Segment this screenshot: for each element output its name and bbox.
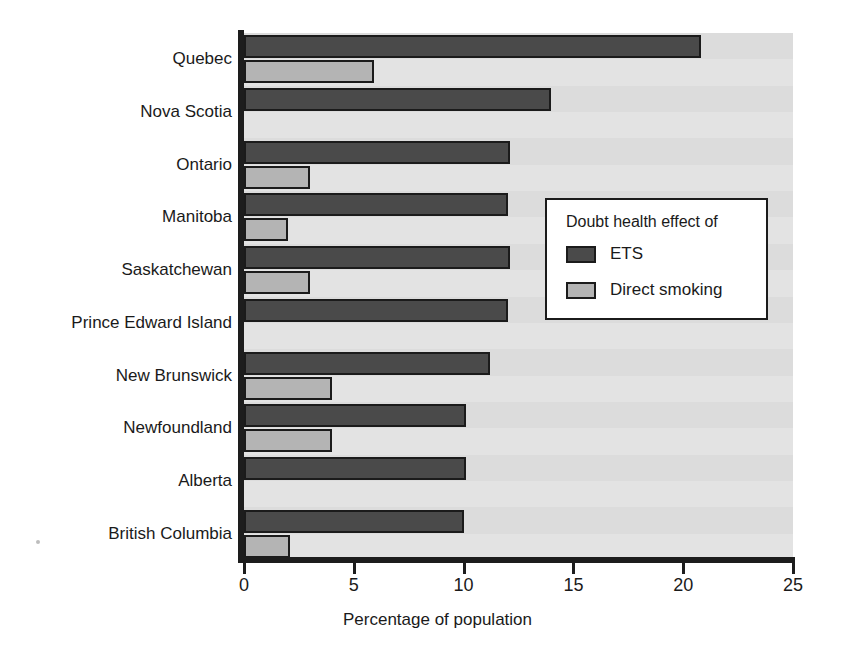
x-tick-mark <box>792 563 795 574</box>
category-label: Nova Scotia <box>140 103 232 121</box>
category-label: Newfoundland <box>123 419 232 437</box>
bar-chart: QuebecNova ScotiaOntarioManitobaSaskatch… <box>0 0 845 660</box>
x-tick-label: 10 <box>454 575 474 595</box>
category-label: Alberta <box>178 472 232 490</box>
category-label: New Brunswick <box>116 367 232 385</box>
x-tick-label: 5 <box>349 575 359 595</box>
x-tick-mark <box>463 563 466 574</box>
bar-ets <box>244 457 466 480</box>
legend-title: Doubt health effect of <box>566 213 718 231</box>
x-tick-label: 0 <box>239 575 249 595</box>
bar-direct-smoking <box>244 271 310 294</box>
bar-ets <box>244 193 508 216</box>
x-tick-mark <box>243 563 246 574</box>
bar-ets <box>244 88 551 111</box>
bar-ets <box>244 404 466 427</box>
bar-ets <box>244 141 510 164</box>
bar-direct-smoking <box>244 377 332 400</box>
category-label: Prince Edward Island <box>71 314 232 332</box>
x-tick-label: 20 <box>673 575 693 595</box>
legend: Doubt health effect of ETS Direct smokin… <box>545 198 768 320</box>
legend-label-direct-smoking: Direct smoking <box>610 280 722 300</box>
legend-label-ets: ETS <box>610 244 643 264</box>
legend-swatch-ets <box>566 246 596 263</box>
x-tick-label: 15 <box>563 575 583 595</box>
category-label: Quebec <box>172 50 232 68</box>
bar-ets <box>244 35 701 58</box>
x-tick-mark <box>353 563 356 574</box>
x-tick-mark <box>682 563 685 574</box>
category-label: Manitoba <box>162 208 232 226</box>
y-axis-line <box>238 30 244 563</box>
bar-ets <box>244 299 508 322</box>
x-tick-label: 25 <box>783 575 803 595</box>
bar-direct-smoking <box>244 60 374 83</box>
x-tick-mark <box>572 563 575 574</box>
bar-ets <box>244 510 464 533</box>
category-label: Ontario <box>176 156 232 174</box>
bar-direct-smoking <box>244 535 290 558</box>
bar-direct-smoking <box>244 218 288 241</box>
x-axis-title-text: Percentage of population <box>343 610 532 630</box>
category-label: British Columbia <box>108 525 232 543</box>
bar-direct-smoking <box>244 429 332 452</box>
legend-swatch-direct-smoking <box>566 282 596 299</box>
bar-ets <box>244 246 510 269</box>
x-axis-title: Percentage of population <box>0 610 845 630</box>
x-axis-line <box>238 557 795 563</box>
bar-ets <box>244 352 490 375</box>
scan-artifact <box>36 540 40 544</box>
category-label: Saskatchewan <box>121 261 232 279</box>
bar-direct-smoking <box>244 166 310 189</box>
